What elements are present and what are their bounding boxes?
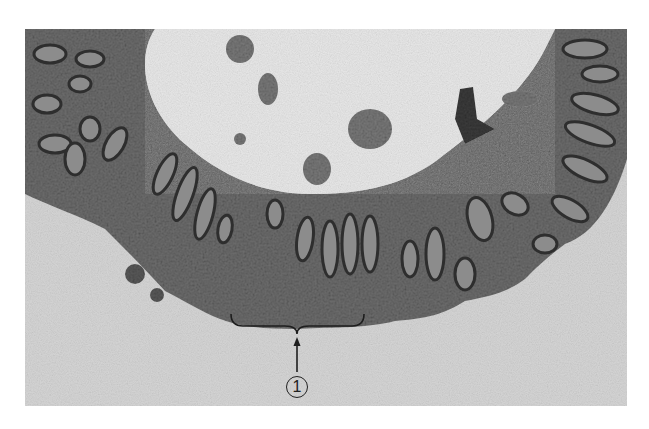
callout-label-1: 1 [286, 376, 308, 398]
histology-micrograph [25, 29, 627, 406]
